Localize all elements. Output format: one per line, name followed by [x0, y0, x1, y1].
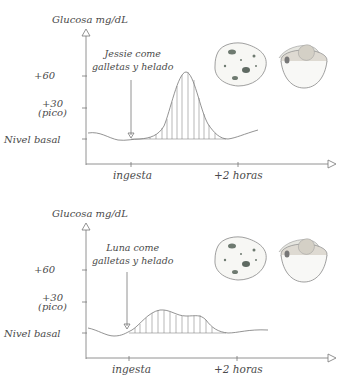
x-tick-plus-2h: +2 horas	[214, 169, 263, 181]
glucose-plot-luna	[0, 194, 364, 388]
ice-cream-bowl-icon	[279, 45, 327, 88]
intake-annotation: Jessie come galletas y helado	[92, 47, 173, 73]
x-tick-intake: ingesta	[113, 169, 152, 181]
y-tick-60: +60	[34, 264, 55, 275]
chart-panel-jessie: Glucosa mg/dL +60 +30 (pico) Nivel basal…	[0, 0, 364, 194]
x-tick-intake: ingesta	[112, 363, 151, 375]
y-tick-baseline: Nivel basal	[4, 328, 61, 339]
intake-annotation: Luna come galletas y helado	[92, 241, 173, 267]
chart-panel-luna: Glucosa mg/dL +60 +30 (pico) Nivel basal…	[0, 194, 364, 388]
y-tick-30-pico: +30 (pico)	[38, 293, 67, 311]
glucose-plot-jessie	[0, 0, 364, 194]
y-tick-peak-note: (pico)	[38, 108, 67, 117]
cookie-icon	[215, 237, 266, 280]
cookie-icon	[215, 43, 266, 86]
annotation-line-2: galletas y helado	[92, 60, 173, 73]
x-tick-plus-2h: +2 horas	[214, 363, 263, 375]
y-tick-peak-note: (pico)	[38, 302, 67, 311]
y-tick-60: +60	[34, 70, 55, 81]
y-tick-30-pico: +30 (pico)	[38, 99, 67, 117]
y-axis-label: Glucosa mg/dL	[52, 208, 128, 219]
y-axis-label: Glucosa mg/dL	[52, 14, 128, 25]
annotation-line-2: galletas y helado	[92, 254, 173, 267]
y-tick-baseline: Nivel basal	[4, 134, 61, 145]
annotation-line-1: Jessie come	[92, 47, 173, 60]
ice-cream-bowl-icon	[279, 239, 327, 282]
annotation-line-1: Luna come	[92, 241, 173, 254]
